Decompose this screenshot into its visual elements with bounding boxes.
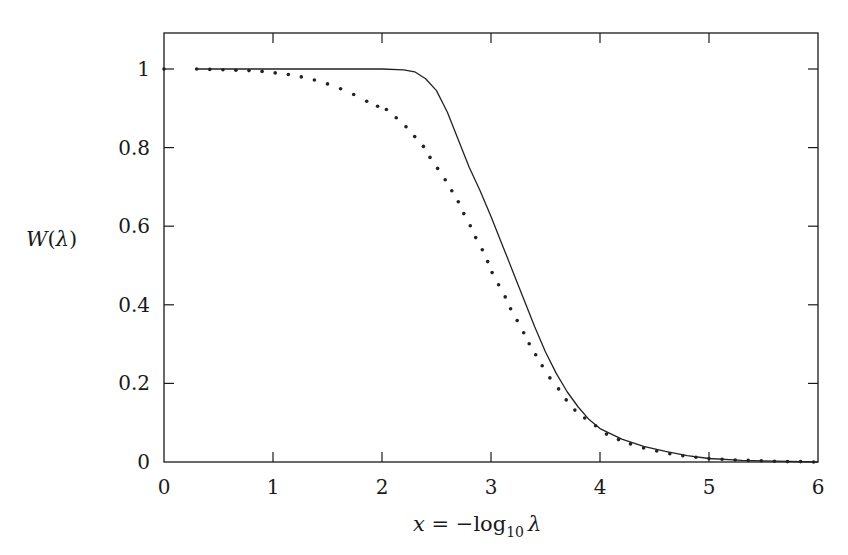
dotted-curve-point [234,68,238,72]
data-series [162,67,818,464]
dotted-curve-point [462,212,466,216]
dotted-curve-point [422,145,426,149]
dotted-curve-point [786,460,790,464]
dotted-curve-point [548,376,552,380]
x-tick-label: 5 [703,475,716,499]
dotted-curve-point [509,307,513,311]
dotted-curve-point [313,78,317,82]
dotted-curve-point [404,125,408,129]
dotted-curve-point [629,442,633,446]
dotted-curve-point [376,105,380,109]
dotted-curve-point [300,75,304,79]
dotted-curve-point [450,189,454,193]
dotted-curve-point [799,460,803,464]
y-tick-label: 0.2 [118,371,150,395]
dotted-curve-point [497,283,501,287]
dotted-curve-point [385,108,389,112]
dotted-curve-point [469,224,473,228]
dotted-curve-point [522,331,526,335]
dotted-curve-point [208,68,212,72]
dotted-curve-point [681,454,685,458]
dotted-curve-point [812,460,816,464]
axis-ticks [164,33,818,462]
dotted-curve-point [428,156,432,160]
dotted-curve-point [503,295,507,299]
dotted-curve-point [436,167,440,171]
dotted-curve-point [326,82,330,86]
solid-curve [197,69,818,462]
dotted-curve-point [221,68,225,72]
y-tick-label: 0.6 [118,214,150,238]
dotted-curve-point [746,459,750,463]
dotted-curve-point [557,387,561,391]
dotted-curve-point [339,87,343,91]
dotted-curve-point [733,458,737,462]
dotted-curve-point [273,71,277,75]
dotted-curve-point [534,353,538,357]
dotted-curve-point [352,93,356,97]
dotted-curve-point [760,459,764,463]
y-tick-label: 0 [137,450,150,474]
y-tick-label: 0.8 [118,136,150,160]
x-tick-label: 2 [376,475,389,499]
dotted-curve-point [668,452,672,456]
dotted-curve-point [287,73,291,77]
dotted-curve-point [443,178,447,182]
dotted-curve-point [605,432,609,436]
x-tick-label: 0 [158,475,171,499]
dotted-curve-point [474,236,478,240]
dotted-curve-point [490,271,494,275]
dotted-curve-point [573,408,577,412]
dotted-curve-point [694,456,698,460]
x-tick-label: 4 [594,475,607,499]
x-tick-label: 3 [485,475,498,499]
x-tick-label: 6 [812,475,825,499]
y-tick-label: 1 [137,57,150,81]
chart: 012345600.20.40.60.81 W(λ) x = −log10λ [0,0,848,555]
dotted-curve-point [260,70,264,74]
dotted-curve-point [457,200,461,204]
dotted-curve-point [642,446,646,450]
dotted-curve-point [707,457,711,461]
x-axis-label: x = −log10λ [413,512,541,540]
dotted-curve-point [162,67,166,71]
y-axis-label: W(λ) [26,227,77,251]
dotted-curve-point [481,248,485,252]
dotted-curve-point [540,364,544,368]
dotted-curve-point [365,99,369,103]
x-tick-label: 1 [267,475,280,499]
tick-labels: 012345600.20.40.60.81 [118,57,824,499]
y-tick-label: 0.4 [118,293,150,317]
dotted-curve-point [655,449,659,453]
dotted-curve-point [527,342,531,346]
plot-frame [164,33,818,462]
dotted-curve-point [247,69,251,73]
dotted-curve-point [394,116,398,120]
dotted-curve-point [773,459,777,463]
dotted-curve-point [195,67,199,71]
dotted-curve-point [720,457,724,461]
dotted-curve-point [617,438,621,442]
dotted-curve-point [486,260,490,264]
dotted-curve-point [594,424,598,428]
dotted-curve-point [413,135,417,139]
dotted-curve-point [564,398,568,402]
dotted-curve-point [583,416,587,420]
dotted-curve-point [515,319,519,323]
